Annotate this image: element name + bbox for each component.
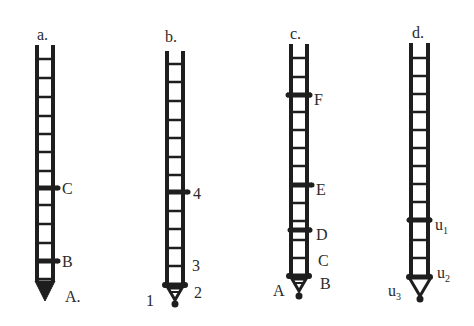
- ladder-d-label-u1: u1: [435, 216, 448, 236]
- ladder-d-marker-u1: [407, 218, 433, 223]
- ladder-a-rungs: [37, 59, 53, 279]
- ladder-c-label-b: B: [320, 275, 331, 292]
- ladder-c-title: c.: [290, 25, 301, 42]
- ladder-d: [406, 43, 433, 303]
- ladder-b-rungs: [167, 64, 183, 266]
- ladder-a: [35, 45, 61, 301]
- ladder-d-title: d.: [412, 24, 424, 41]
- ladder-c-base: [286, 273, 312, 300]
- ladder-a-label-c: C: [62, 180, 73, 197]
- ladder-c-marker-d: [288, 228, 313, 233]
- ladder-diagram: a. C B A. b. 4 3 2 1 c. F E D C B A d. u…: [0, 0, 474, 326]
- ladder-b-base: [162, 282, 188, 308]
- ladder-d-base: [406, 274, 433, 303]
- ladder-c-label-e: E: [316, 181, 326, 198]
- ladder-a-title: a.: [37, 26, 48, 43]
- ladder-a-marker-b: [36, 259, 61, 264]
- ladder-a-label-b: B: [62, 253, 73, 270]
- ladder-d-label-u2: u2: [437, 264, 450, 284]
- ladder-b-label-2: 2: [194, 284, 202, 301]
- ladder-b-title: b.: [165, 28, 177, 45]
- ladder-c-label-f: F: [314, 91, 323, 108]
- ladder-b: [162, 51, 191, 308]
- ladder-b-label-3: 3: [192, 257, 200, 274]
- ladder-b-marker-4: [166, 190, 191, 195]
- ladder-c-label-d: D: [316, 226, 328, 243]
- ladder-b-label-1: 1: [146, 292, 154, 309]
- ladder-c-marker-e: [290, 183, 315, 188]
- ladder-a-tip-arrow: [35, 281, 55, 301]
- ladder-c-label-a: A: [273, 282, 285, 299]
- ladder-c-marker-f: [286, 93, 313, 98]
- ladder-c-label-c: C: [318, 252, 329, 269]
- ladder-d-rungs: [411, 58, 428, 258]
- ladder-b-label-4: 4: [193, 185, 201, 202]
- ladder-c: [286, 44, 315, 300]
- ladder-d-label-u3: u3: [388, 282, 401, 302]
- ladder-a-marker-c: [36, 186, 61, 191]
- ladder-a-label-a: A.: [65, 288, 81, 305]
